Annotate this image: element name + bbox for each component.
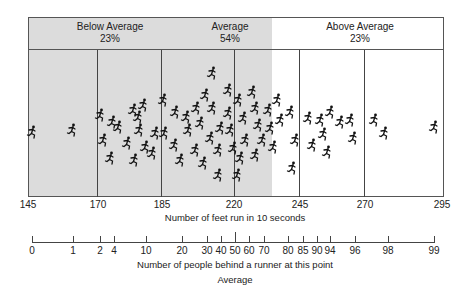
p-tick-average	[235, 232, 236, 242]
runners-pictogram	[0, 0, 465, 200]
percentile-axis-sublabel: Average	[217, 274, 252, 285]
p-tick	[207, 236, 208, 242]
p-label-2: 2	[97, 245, 103, 256]
p-tick	[434, 236, 435, 242]
p-label-60: 60	[243, 245, 254, 256]
x-tick-145: 145	[20, 199, 37, 210]
x-tick-245: 245	[292, 199, 309, 210]
x-axis-title: Number of feet run in 10 seconds	[165, 212, 305, 223]
p-label-70: 70	[258, 245, 269, 256]
p-label-85: 85	[297, 245, 308, 256]
x-tick-270: 270	[357, 199, 374, 210]
p-label-1: 1	[70, 245, 76, 256]
p-tick	[249, 236, 250, 242]
x-tick-185: 185	[154, 199, 171, 210]
p-label-50: 50	[229, 245, 240, 256]
p-tick	[264, 236, 265, 242]
p-tick	[330, 236, 331, 242]
p-label-0: 0	[29, 245, 35, 256]
percentile-axis-title: Number of people behind a runner at this…	[137, 259, 333, 270]
p-tick	[146, 236, 147, 242]
p-label-94: 94	[324, 245, 335, 256]
p-tick	[388, 236, 389, 242]
p-label-98: 98	[382, 245, 393, 256]
p-tick	[182, 236, 183, 242]
p-tick	[303, 236, 304, 242]
p-label-90: 90	[311, 245, 322, 256]
p-label-4: 4	[111, 245, 117, 256]
percentile-axis-line	[32, 242, 435, 243]
p-tick	[221, 236, 222, 242]
p-label-80: 80	[282, 245, 293, 256]
p-label-96: 96	[349, 245, 360, 256]
x-tick-295: 295	[434, 199, 451, 210]
p-label-30: 30	[201, 245, 212, 256]
p-tick	[288, 236, 289, 242]
p-tick	[100, 236, 101, 242]
runner-icons	[28, 67, 438, 181]
p-tick	[73, 236, 74, 242]
p-label-40: 40	[215, 245, 226, 256]
p-label-10: 10	[140, 245, 151, 256]
x-tick-220: 220	[226, 199, 243, 210]
p-tick	[32, 236, 33, 242]
p-label-99: 99	[428, 245, 439, 256]
p-tick	[317, 236, 318, 242]
p-tick	[355, 236, 356, 242]
x-tick-170: 170	[90, 199, 107, 210]
p-label-20: 20	[176, 245, 187, 256]
p-tick	[114, 236, 115, 242]
